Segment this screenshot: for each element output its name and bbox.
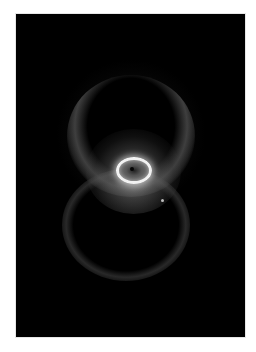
field-star (161, 199, 164, 202)
nebula-image-frame (16, 14, 245, 337)
central-star (130, 167, 134, 171)
inner-bright-ring (116, 157, 152, 184)
